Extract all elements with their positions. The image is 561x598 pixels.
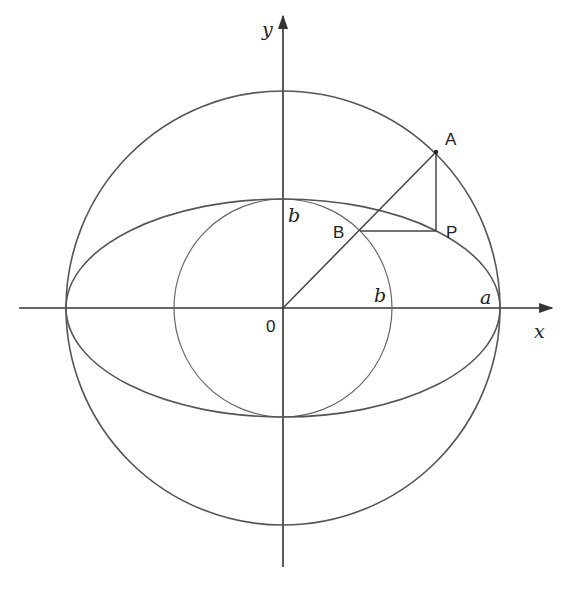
- radius-line-OA: [283, 152, 436, 308]
- b-label-y-axis: b: [288, 204, 300, 226]
- x-axis-label: x: [534, 320, 545, 342]
- origin-label: 0: [266, 317, 275, 336]
- point-A-dot: [434, 150, 438, 154]
- a-label-x-axis: a: [480, 286, 491, 308]
- y-axis-label: y: [261, 18, 273, 40]
- point-B-label: B: [333, 223, 344, 242]
- ellipse-construction-diagram: y x 0 A B P b b a: [0, 0, 561, 598]
- point-A-label: A: [445, 130, 457, 149]
- point-P-label: P: [446, 223, 457, 242]
- b-label-x-axis: b: [374, 284, 386, 306]
